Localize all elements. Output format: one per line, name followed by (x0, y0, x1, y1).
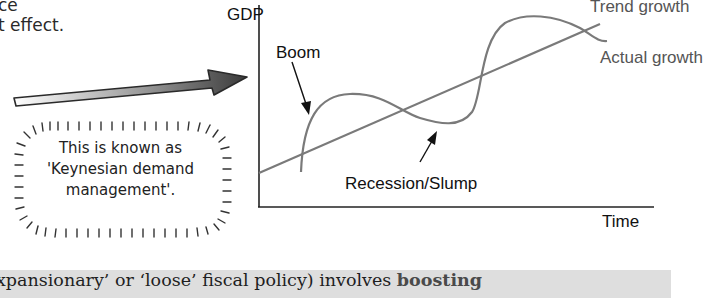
band-text-bold: boosting (397, 270, 482, 290)
callout-line-1: This is known as (28, 138, 213, 159)
band-text-regular: xpansionary’ or ‘loose’ fiscal policy) i… (0, 270, 397, 290)
recession-pointer-arrow (420, 131, 437, 162)
band-text: xpansionary’ or ‘loose’ fiscal policy) i… (0, 270, 482, 290)
boom-label: Boom (276, 43, 320, 63)
x-axis-label: Time (602, 212, 639, 232)
trend-growth-label: Trend growth (590, 0, 690, 17)
boom-pointer-arrow (292, 62, 311, 115)
actual-growth-curve (301, 16, 607, 172)
callout-text: This is known as 'Keynesian demand manag… (28, 138, 213, 201)
callout-line-3: management'. (28, 180, 213, 201)
callout-line-2: 'Keynesian demand (28, 159, 213, 180)
recession-label: Recession/Slump (345, 174, 477, 194)
y-axis-label: GDP (227, 5, 264, 25)
big-arrow-icon (14, 70, 247, 106)
actual-growth-label: Actual growth (600, 48, 703, 68)
